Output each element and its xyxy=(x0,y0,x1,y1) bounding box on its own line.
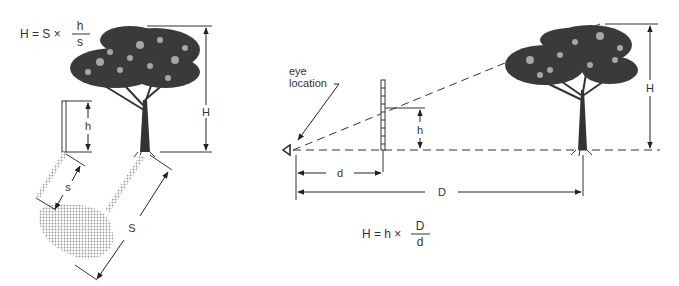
tree-height-label-right: H xyxy=(646,82,654,94)
sighting-formula: H = h × D d xyxy=(362,219,430,249)
stick-sight-height-label: h xyxy=(417,124,423,136)
sighting-formula-lhs: H = h × xyxy=(362,227,401,241)
shadow-formula-lhs: H = S × xyxy=(20,27,61,41)
sighting-method-diagram: eye location h xyxy=(283,24,660,249)
measuring-stick-left xyxy=(62,101,66,152)
shadow-method-diagram: H = S × h s H xyxy=(20,19,212,280)
eye-icon xyxy=(283,145,290,155)
shadow-formula-numerator: h xyxy=(77,19,84,33)
stick-distance-label: d xyxy=(337,167,343,179)
shadow-formula: H = S × h s xyxy=(20,19,90,49)
tree-distance-dimension: D xyxy=(298,186,581,198)
stick-sight-height-dimension: h xyxy=(385,108,425,148)
tree-shadow-label: S xyxy=(128,222,135,234)
tree-height-label-left: H xyxy=(202,106,210,118)
sighting-formula-numerator: D xyxy=(416,219,425,233)
shadow-formula-denominator: s xyxy=(77,35,83,49)
tree-shadow-area xyxy=(39,205,113,259)
stick-distance-dimension: d xyxy=(298,167,381,179)
measuring-stick-right xyxy=(381,80,385,172)
sighting-formula-denominator: d xyxy=(417,235,424,249)
tree-height-diagram: H = S × h s H xyxy=(0,0,679,286)
shadows xyxy=(36,152,145,259)
tree-illustration-right xyxy=(505,25,638,156)
tree-illustration-left xyxy=(70,26,200,158)
stick-shadow-label: s xyxy=(65,181,71,193)
stick-height-dimension: h xyxy=(66,101,92,152)
stick-height-label: h xyxy=(85,120,91,132)
eye-label-line2: location xyxy=(289,77,327,89)
eye-pointer-arrow xyxy=(298,84,339,140)
eye-label-line1: eye xyxy=(289,65,307,77)
tree-distance-label: D xyxy=(438,186,446,198)
